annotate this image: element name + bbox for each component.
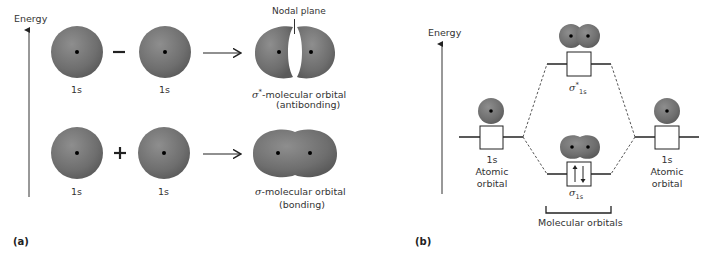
- mo-antibonding-label: σ*1s: [569, 79, 587, 98]
- nucleus-dot: [665, 109, 669, 113]
- antibonding-lobe-left: [255, 26, 293, 78]
- orbital-label: 1s: [158, 186, 169, 198]
- antibonding-lobe-right: [297, 26, 335, 78]
- orbital-label: 1s: [71, 186, 82, 198]
- nucleus-dot: [489, 109, 493, 113]
- nucleus-dot: [163, 50, 167, 54]
- bonding-line2: (bonding): [279, 199, 325, 211]
- ao-right-line2: Atomic: [647, 166, 687, 178]
- ao-box-right: [655, 126, 679, 149]
- mo-bonding-shape: [560, 135, 600, 159]
- orbital-label: 1s: [159, 84, 170, 96]
- nucleus-dot: [586, 145, 590, 149]
- mo-bonding-label: σ1s: [569, 187, 583, 203]
- energy-axis-label-b: Energy: [428, 27, 461, 39]
- nodal-plane-label: Nodal plane: [272, 5, 326, 17]
- correlation-line: [523, 64, 547, 137]
- orbital-label: 1s: [71, 84, 82, 96]
- ao-left-line3: orbital: [472, 178, 512, 190]
- molecular-orbitals-bracket: [546, 206, 611, 213]
- bonding-line1: -molecular orbital: [262, 186, 346, 197]
- nucleus-dot: [569, 34, 573, 38]
- row-antibonding: [51, 19, 335, 78]
- row-bonding: [51, 127, 337, 179]
- bonding-title: σ-molecular orbital: [255, 186, 346, 198]
- nucleus-dot: [162, 151, 166, 155]
- ao-left-name: 1s: [477, 154, 507, 166]
- molecular-orbitals-label: Molecular orbitals: [538, 217, 623, 229]
- nucleus-dot: [75, 151, 79, 155]
- mo-box-bonding: [567, 162, 591, 186]
- nucleus-dot: [570, 145, 574, 149]
- diagram-canvas: [0, 0, 707, 254]
- correlation-line: [611, 137, 635, 174]
- nucleus-dot: [309, 50, 313, 54]
- ao-right-line3: orbital: [647, 178, 687, 190]
- ao-right-name: 1s: [652, 154, 682, 166]
- energy-axis-label-a: Energy: [14, 13, 47, 25]
- nucleus-dot: [277, 50, 281, 54]
- panel-label-a: (a): [13, 236, 29, 247]
- nucleus-dot: [308, 151, 312, 155]
- mo-box-antibonding: [567, 52, 591, 76]
- subscript: 1s: [579, 88, 587, 96]
- ao-box-left: [480, 126, 503, 149]
- subscript: 1s: [576, 193, 584, 201]
- bonding-orbital-shape: [253, 130, 337, 178]
- panel-label-b: (b): [415, 236, 431, 247]
- nucleus-dot: [75, 50, 79, 54]
- correlation-line: [611, 64, 635, 137]
- nucleus-dot: [276, 151, 280, 155]
- antibonding-line2: (antibonding): [276, 99, 340, 111]
- correlation-line: [523, 137, 547, 174]
- nucleus-dot: [586, 34, 590, 38]
- ao-left-line2: Atomic: [472, 166, 512, 178]
